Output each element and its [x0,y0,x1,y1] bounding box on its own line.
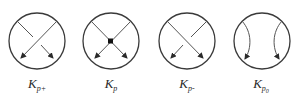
under-strand-lower [41,45,53,58]
singular-vertex-square [108,39,113,44]
under-strand-lower [171,45,183,58]
singular-crossing-graphic [74,0,148,76]
diagram-oriented-smoothing: Kp0 [224,0,298,100]
label-negative-crossing: Kp- [150,77,224,96]
oriented-smoothing-graphic [224,0,298,76]
over-strand [21,21,57,58]
label-subscript: p0 [262,84,269,93]
over-strand [167,21,203,58]
label-subsubscript: 0 [266,88,269,94]
label-main: K [179,76,188,91]
negative-crossing-graphic [150,0,224,76]
diagram-negative-crossing: Kp- [150,0,224,100]
left-smoothed-strand [242,21,250,59]
label-singular-crossing: Kp [74,77,148,96]
label-subscript: p [113,84,117,93]
label-main: K [253,76,262,91]
label-subscript: p+ [37,84,46,93]
label-subscript: p- [188,84,195,93]
label-main: K [28,76,37,91]
label-oriented-smoothing: Kp0 [224,77,298,98]
label-positive-crossing: Kp+ [0,77,74,96]
diagram-singular-crossing: Kp [74,0,148,100]
under-strand-upper [17,21,33,37]
right-smoothed-strand [274,21,282,59]
diagram-positive-crossing: Kp+ [0,0,74,100]
positive-crossing-graphic [0,0,74,76]
under-strand-upper [191,21,207,37]
